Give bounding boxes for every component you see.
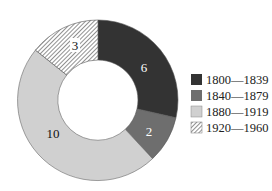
legend-swatch-1880-1919	[191, 106, 202, 117]
slice-label-1880-1919: 10	[47, 126, 60, 141]
slice-label-1800-1839: 6	[141, 60, 148, 75]
slice-label-1840-1879: 2	[146, 124, 153, 139]
legend-label-1800-1839: 1800—1839	[206, 73, 269, 87]
legend-swatch-1840-1879	[191, 90, 202, 101]
legend-swatch-1800-1839	[191, 74, 202, 85]
legend: 1800—1839 1840—1879 1880—1919 1920—1960	[191, 73, 269, 135]
slice-1800-1839	[98, 20, 178, 118]
slice-label-1920-1960: 3	[72, 38, 79, 53]
donut-chart: 6 2 10 3 1800—1839 1840—1879 1880—1919 1…	[0, 0, 272, 191]
legend-swatch-1920-1960	[191, 122, 202, 133]
legend-label-1840-1879: 1840—1879	[206, 89, 269, 103]
legend-label-1880-1919: 1880—1919	[206, 105, 269, 119]
legend-label-1920-1960: 1920—1960	[206, 121, 269, 135]
